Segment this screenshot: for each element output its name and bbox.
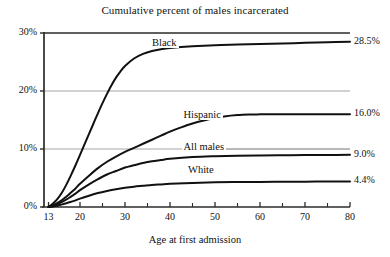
y-tick-label-30: 30% [3,26,37,37]
chart-container: Cumulative percent of males incarcerated… [0,0,390,257]
x-tick-label-13: 13 [34,211,64,222]
x-tick-label-40: 40 [155,211,185,222]
x-tick-label-80: 80 [335,211,365,222]
series-line-hispanic [49,114,351,207]
series-label-all-males: All males [182,141,227,152]
end-value-label-all-males: 9.0% [354,148,375,159]
end-value-label-black: 28.5% [354,35,380,46]
series-label-hispanic: Hispanic [182,109,223,120]
end-value-label-white: 4.4% [354,174,375,185]
y-tick-label-20: 20% [3,84,37,95]
x-axis-title: Age at first admission [0,234,390,245]
y-tick-label-0: 0% [3,200,37,211]
y-tick-label-10: 10% [3,142,37,153]
series-label-white: White [186,164,216,175]
x-tick-label-50: 50 [200,211,230,222]
x-tick-label-20: 20 [65,211,95,222]
x-tick-label-30: 30 [110,211,140,222]
end-value-label-hispanic: 16.0% [354,107,380,118]
x-tick-label-60: 60 [245,211,275,222]
x-tick-label-70: 70 [290,211,320,222]
series-label-black: Black [150,37,179,48]
